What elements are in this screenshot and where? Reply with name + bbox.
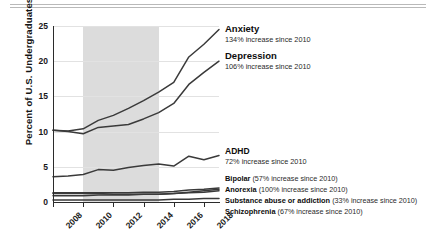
annotation-substance: Substance abuse or addiction (33% increa… [225,196,417,205]
series-line-depression [53,61,219,134]
x-tick-label: 2008 [64,210,84,230]
annotation-title-depression: Depression [225,50,277,61]
annotation-subtitle-bipolar: (57% increase since 2010) [252,174,337,183]
annotation-title-anxiety: Anxiety [225,23,259,34]
annotation-subtitle-substance: (33% increase since 2010) [332,196,417,205]
annotation-schizophrenia: Schizophrenia (67% increase since 2010) [225,207,363,216]
x-tick-mark [53,203,54,207]
x-tick-mark [83,203,84,207]
chart-figure: Percent of U.S. Undergraduates 051015202… [0,10,432,244]
annotation-subtitle-anxiety: 134% increase since 2010 [225,35,311,44]
x-tick-mark [174,203,175,207]
divider-line-top [10,4,426,5]
x-tick-label: 2016 [184,210,204,230]
x-tick-mark [144,203,145,207]
annotation-bipolar: Bipolar (57% increase since 2010) [225,174,338,183]
annotation-subtitle-anorexia: (100% increase since 2010) [259,185,348,194]
y-tick-label: 15 [22,91,48,101]
y-tick-label: 5 [22,162,48,172]
annotation-title-bipolar: Bipolar [225,174,250,183]
series-line-adhd [53,156,219,177]
divider-line-bottom [10,7,426,8]
annotation-subtitle-schizophrenia: (67% increase since 2010) [278,207,363,216]
y-axis-line [53,26,54,203]
annotation-title-anorexia: Anorexia [225,185,257,194]
series-line-schizophrenia [53,198,219,199]
annotation-subtitle-adhd: 72% increase since 2010 [225,157,307,166]
annotation-subtitle-depression: 106% increase since 2010 [225,62,311,71]
series-lines [53,26,219,202]
annotation-title-adhd: ADHD [225,146,250,156]
x-tick-label: 2014 [154,210,174,230]
x-axis-line [53,202,220,203]
annotation-title-schizophrenia: Schizophrenia [225,207,276,216]
x-tick-mark [113,203,114,207]
x-tick-mark [204,203,205,207]
y-tick-label: 0 [22,197,48,207]
plot-area [53,26,219,202]
annotation-anorexia: Anorexia (100% increase since 2010) [225,185,348,194]
y-tick-label: 20 [22,56,48,66]
header-divider [10,4,426,8]
x-tick-label: 2010 [94,210,114,230]
x-tick-label: 2012 [124,210,144,230]
y-tick-label: 10 [22,127,48,137]
annotation-title-substance: Substance abuse or addiction [225,196,330,205]
y-tick-label: 25 [22,21,48,31]
